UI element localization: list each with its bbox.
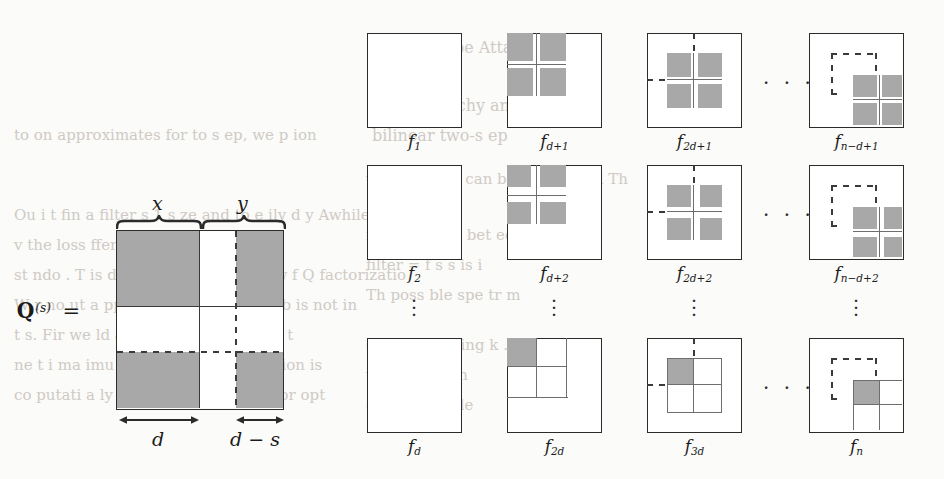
shaded-block — [540, 165, 566, 187]
cell-frame — [367, 338, 462, 433]
caption-subscript: 1 — [414, 140, 421, 152]
block-divider-horizontal — [853, 99, 902, 100]
vertical-ellipsis: ... — [392, 292, 436, 313]
measure-label-d: d — [152, 428, 164, 450]
shaded-block — [882, 75, 902, 97]
shaded-block — [507, 202, 531, 224]
filter-cell: f2d — [507, 338, 602, 433]
filter-cell: fd+1 — [507, 33, 602, 128]
filter-cell: f1 — [367, 33, 462, 128]
block-divider-horizontal — [507, 195, 566, 196]
shaded-block — [540, 202, 566, 224]
shade-top-left — [117, 231, 200, 307]
shaded-block — [700, 185, 722, 207]
block-outline-bottom — [507, 397, 568, 398]
block-outline-bottom — [667, 412, 722, 413]
block-divider-horizontal — [667, 79, 722, 80]
caption-subscript: 2d+1 — [683, 140, 712, 152]
crosshair-dashed-horizontal — [647, 211, 667, 213]
shaded-block — [507, 165, 531, 187]
cell-caption: f1 — [367, 131, 462, 152]
caption-subscript: 2d — [551, 445, 564, 457]
matrix-horizontal-divider — [117, 306, 283, 307]
vertical-ellipsis: ... — [834, 292, 878, 313]
shaded-block — [540, 68, 566, 96]
offset-dashed-bottom — [831, 93, 843, 95]
shaded-block — [882, 103, 902, 125]
block-divider-vertical — [536, 338, 537, 398]
cell-frame — [367, 165, 462, 260]
filter-cell: f2d+1 — [647, 33, 742, 128]
crosshair-dashed-vertical — [693, 338, 695, 358]
horizontal-ellipsis: · · · — [763, 73, 815, 93]
crosshair-dashed-vertical — [693, 165, 695, 185]
matrix-equation-label: Q(s) = — [16, 297, 80, 323]
offset-dashed-left — [831, 358, 833, 400]
caption-subscript: 3d — [691, 445, 704, 457]
crosshair-dashed-horizontal — [647, 79, 667, 81]
block-divider-vertical — [693, 185, 694, 240]
block-divider-vertical — [693, 358, 694, 413]
shaded-block — [698, 84, 722, 108]
shaded-block — [540, 33, 566, 61]
block-outline-right — [721, 358, 722, 413]
cell-caption: fn — [809, 436, 904, 457]
filter-cell: f3d — [647, 338, 742, 433]
offset-dashed-top — [831, 185, 877, 187]
block-divider-horizontal — [853, 404, 902, 405]
block-outline-left — [853, 380, 854, 430]
vertical-ellipsis: ... — [672, 292, 716, 313]
superscript-s: (s) — [35, 301, 51, 315]
cell-caption: f2d+1 — [647, 131, 742, 152]
block-divider-horizontal — [667, 211, 722, 212]
matrix-vertical-divider — [199, 231, 200, 408]
shaded-block — [667, 53, 691, 77]
shaded-block — [667, 218, 691, 240]
caption-subscript: d+2 — [547, 272, 569, 284]
offset-dashed-left — [831, 53, 833, 95]
cell-caption: f2d+2 — [647, 263, 742, 284]
cell-caption: fn−d+2 — [809, 263, 904, 284]
shaded-block — [698, 53, 722, 77]
shaded-block — [667, 84, 691, 108]
caption-subscript: 2d+2 — [683, 272, 712, 284]
cell-caption: f2 — [367, 263, 462, 284]
block-outline-top — [853, 380, 902, 381]
brace-label-y: y — [237, 192, 248, 214]
shade-top-right — [236, 231, 283, 307]
cell-caption: fd+1 — [507, 131, 602, 152]
filter-cell: fd — [367, 338, 462, 433]
measure-arrow-d-minus-s — [235, 414, 285, 426]
block-divider-horizontal — [507, 366, 567, 367]
caption-subscript: n−d+2 — [841, 272, 879, 284]
matrix-dashed-vertical — [235, 231, 237, 408]
cell-frame — [367, 33, 462, 128]
offset-dashed-bottom — [831, 398, 843, 400]
caption-subscript: n−d+1 — [841, 140, 879, 152]
shade-bottom-left — [117, 352, 200, 408]
filter-grid: f1 fd+1 f2d+1 · · · — [360, 0, 944, 479]
offset-dashed-left — [831, 185, 833, 227]
offset-dashed-top — [831, 358, 877, 360]
equals-sign: = — [58, 299, 81, 323]
filter-cell: f2 — [367, 165, 462, 260]
matrix-rectangle — [116, 230, 284, 410]
shaded-block — [853, 380, 879, 404]
brace-label-x: x — [152, 192, 163, 214]
shaded-block — [853, 103, 877, 125]
shaded-block — [853, 237, 877, 257]
shaded-block — [884, 237, 902, 257]
brace-x — [116, 215, 202, 228]
ghost-line: to on approximates for to s ep, we p ion — [14, 126, 317, 144]
cell-caption: f3d — [647, 436, 742, 457]
shade-bottom-right — [236, 352, 283, 408]
cell-caption: fn−d+1 — [809, 131, 904, 152]
filter-cell: fd+2 — [507, 165, 602, 260]
filter-cell: fn−d+1 — [809, 33, 904, 128]
cell-caption: f2d — [507, 436, 602, 457]
shaded-block — [853, 75, 877, 97]
block-outline-top — [667, 358, 722, 359]
horizontal-ellipsis: · · · — [763, 378, 815, 398]
shaded-block — [507, 338, 536, 366]
block-outline-right — [566, 338, 567, 398]
